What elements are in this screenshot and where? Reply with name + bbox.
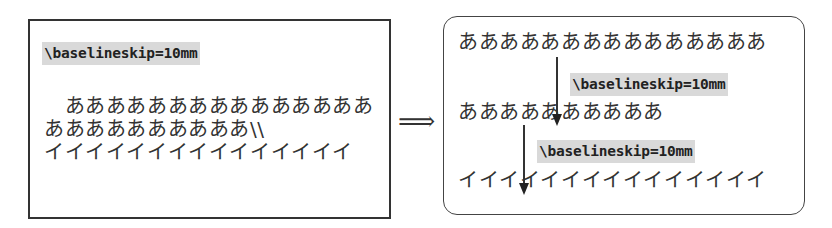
arrow-down-icon [552,114,562,126]
baselineskip-label-2: \baselineskip=10mm [537,140,695,163]
baseline-arrow-2-line [523,125,525,187]
source-line-1: あああああああああああああああ [44,95,374,117]
baselineskip-command: \baselineskip=10mm [42,42,200,65]
source-line-2: ああああああああああ\\ [44,118,265,140]
source-line-3: イイイイイイイイイイイイイイイ [44,141,353,163]
arrow-down-icon [519,183,529,195]
output-line-1: あああああああああああああああ [458,31,767,53]
output-line-3: イイイイイイイイイイイイイイイ [458,169,767,191]
baselineskip-label-1: \baselineskip=10mm [570,73,728,96]
baseline-arrow-1-line [556,57,558,117]
source-code-panel: \baselineskip=10mm あああああああああああああああ あああああ… [28,19,391,219]
implies-arrow-icon: ⟹ [398,106,435,136]
output-panel: あああああああああああああああ \baselineskip=10mm あああああ… [443,16,805,215]
